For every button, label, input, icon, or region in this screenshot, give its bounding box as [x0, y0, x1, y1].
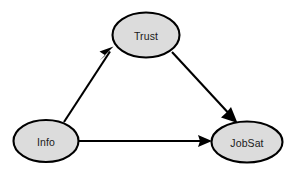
edge-info-to-trust-line — [64, 52, 110, 123]
edge-info-to-jobsat-arrowhead-icon — [198, 135, 212, 147]
edge-info-to-trust — [64, 47, 114, 123]
edge-trust-to-jobsat — [172, 52, 238, 123]
node-jobsat[interactable]: JobSat — [212, 122, 283, 163]
node-info-label: Info — [37, 136, 55, 148]
node-trust[interactable]: Trust — [113, 13, 180, 58]
path-diagram-canvas: Trust Info JobSat — [0, 0, 289, 173]
node-info[interactable]: Info — [14, 120, 79, 162]
node-trust-label: Trust — [134, 30, 158, 42]
edge-trust-to-jobsat-line — [172, 52, 233, 118]
path-diagram-svg: Trust Info JobSat — [0, 0, 289, 173]
node-jobsat-label: JobSat — [230, 137, 263, 149]
edge-info-to-jobsat — [79, 135, 212, 147]
edge-trust-to-jobsat-arrowhead-icon — [221, 107, 238, 123]
